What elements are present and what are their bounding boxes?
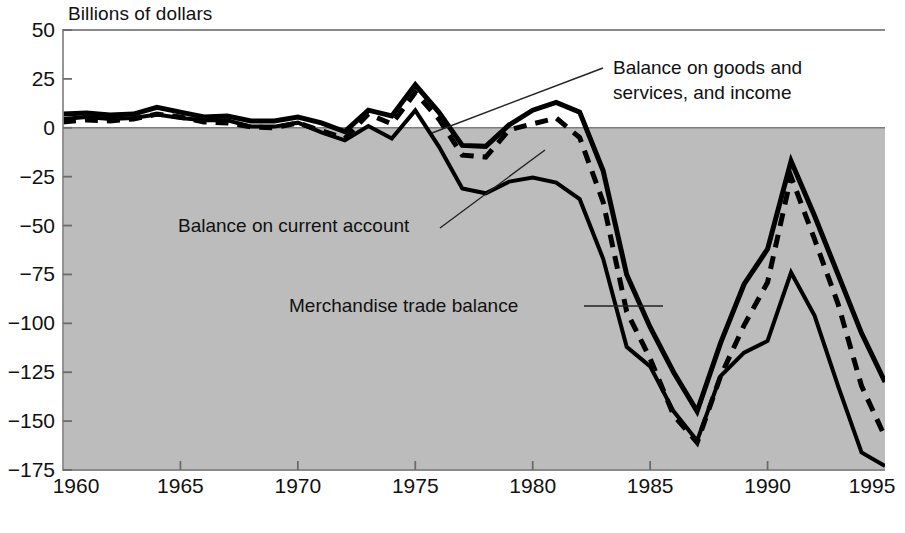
annot-merchandise: Merchandise trade balance: [289, 295, 518, 316]
chart-figure: Billions of dollars 50250−25−50−75−100−1…: [0, 0, 905, 533]
annotation-text-line: Balance on current account: [178, 215, 410, 236]
y-axis-tick-label: 0: [43, 116, 55, 139]
y-axis-tick-label: −100: [8, 311, 55, 334]
x-axis-tick-label: 1980: [509, 474, 556, 497]
x-axis-tick-label: 1995: [849, 474, 896, 497]
annotation-text-line: Merchandise trade balance: [289, 295, 518, 316]
annot-current-account: Balance on current account: [178, 215, 410, 236]
y-axis-tick-label: −25: [19, 165, 55, 188]
x-axis-tick-label: 1965: [157, 474, 204, 497]
x-axis-tick-label: 1975: [392, 474, 439, 497]
x-axis-tick-label: 1990: [744, 474, 791, 497]
x-axis-tick-label: 1970: [274, 474, 321, 497]
balance-of-payments-line-chart: 50250−25−50−75−100−125−150−175 196019651…: [0, 0, 905, 533]
y-axis-tick-label: −75: [19, 262, 55, 285]
annotation-text-line: services, and income: [613, 82, 791, 103]
x-axis-tick-label: 1960: [53, 474, 100, 497]
annotation-text-line: Balance on goods and: [613, 57, 802, 78]
y-axis-tick-label: −50: [19, 214, 55, 237]
y-axis-tick-label: −125: [8, 360, 55, 383]
y-axis-tick-label: 50: [32, 18, 55, 41]
x-axis-tick-label: 1985: [627, 474, 674, 497]
y-axis-title: Billions of dollars: [68, 3, 212, 25]
y-axis-tick-label: 25: [32, 67, 55, 90]
y-axis-tick-label: −175: [8, 458, 55, 481]
y-axis-tick-label: −150: [8, 409, 55, 432]
